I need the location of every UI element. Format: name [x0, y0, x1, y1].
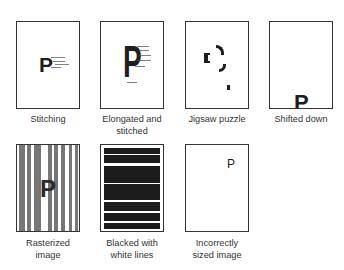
stitch-streak — [53, 61, 65, 62]
jigsaw-piece-stem-notch — [204, 61, 210, 63]
label-incorrect-size: Incorrectly sized image — [175, 237, 259, 261]
black-band — [104, 213, 160, 221]
panel-jigsaw — [185, 21, 249, 109]
label-line: stitched — [90, 125, 174, 137]
label-line: image — [6, 249, 90, 261]
stitch-streak — [137, 46, 149, 47]
stitch-streak — [55, 64, 69, 65]
label-line: Jigsaw puzzle — [175, 113, 259, 125]
jigsaw-piece-arc-bottom — [219, 64, 226, 72]
label-line: Elongated and — [90, 113, 174, 125]
black-band — [104, 155, 160, 163]
panel-elongated: P — [100, 21, 164, 109]
letter-p-small: P — [227, 158, 235, 170]
black-band — [104, 223, 160, 229]
jigsaw-piece-fragment — [227, 85, 230, 90]
letter-p-shifted: P — [294, 92, 309, 109]
stitch-streak — [51, 67, 61, 68]
panel-shifted: P — [269, 21, 333, 109]
raster-stripe — [19, 145, 25, 231]
stitch-streak — [137, 60, 151, 61]
stitch-streak — [51, 57, 65, 58]
stitch-streak — [135, 66, 145, 67]
label-line: Blacked with — [90, 237, 174, 249]
black-band — [104, 166, 160, 183]
label-line: Stitching — [6, 113, 90, 125]
panel-blacked — [100, 144, 164, 232]
label-line: white lines — [90, 249, 174, 261]
stitch-streak — [139, 50, 149, 51]
label-blacked: Blacked with white lines — [90, 237, 174, 261]
label-jigsaw: Jigsaw puzzle — [175, 113, 259, 125]
label-line: sized image — [175, 249, 259, 261]
label-line: Rasterized — [6, 237, 90, 249]
raster-stripe — [27, 145, 31, 231]
panel-stitching: P — [16, 21, 80, 109]
black-band — [104, 184, 160, 200]
label-line: Incorrectly — [175, 237, 259, 249]
label-line: Shifted down — [259, 113, 343, 125]
label-shifted: Shifted down — [259, 113, 343, 125]
stitch-streak — [127, 82, 137, 83]
raster-stripe — [75, 145, 78, 231]
label-stitching: Stitching — [6, 113, 90, 125]
raster-stripe — [61, 145, 65, 231]
letter-p-rasterized: P — [40, 177, 56, 201]
raster-stripe — [69, 145, 72, 231]
panel-rasterized: P — [16, 144, 80, 232]
label-rasterized: Rasterized image — [6, 237, 90, 261]
label-elongated: Elongated and stitched — [90, 113, 174, 137]
jigsaw-piece-stem-notch — [204, 53, 210, 55]
stitch-streak — [139, 55, 151, 56]
jigsaw-piece-arc-top — [216, 45, 224, 55]
panel-incorrect-size: P — [185, 144, 249, 232]
black-band — [104, 148, 160, 154]
black-band — [104, 202, 160, 211]
